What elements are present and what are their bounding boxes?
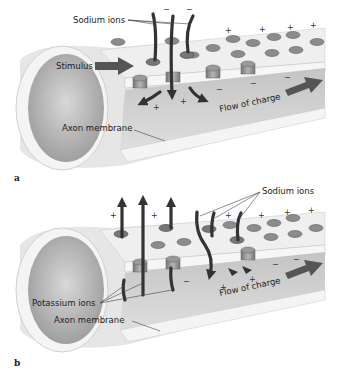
minus-sign: − [284, 73, 291, 82]
panel-b: + + + + + + − + + − − Sodium ions Potass… [14, 186, 325, 368]
plus-sign: + [225, 26, 232, 35]
minus-sign: − [186, 5, 193, 14]
label-axon-membrane: Axon membrane [62, 123, 132, 133]
label-sodium-ions: Sodium ions [73, 15, 126, 25]
label-sodium-ions: Sodium ions [262, 186, 315, 196]
minus-sign: − [250, 79, 257, 88]
minus-sign: − [293, 255, 300, 264]
panel-label-b: b [14, 358, 20, 368]
plus-sign: + [308, 206, 315, 215]
plus-sign: + [110, 211, 117, 220]
plus-sign: + [153, 103, 160, 112]
minus-sign: − [163, 5, 170, 14]
minus-sign: − [272, 260, 279, 269]
minus-sign: − [216, 85, 223, 94]
label-axon-membrane: Axon membrane [54, 315, 124, 325]
plus-sign: + [258, 211, 265, 220]
minus-sign: − [183, 277, 190, 286]
plus-sign: + [151, 211, 158, 220]
plus-sign: + [284, 208, 291, 217]
plus-sign: + [310, 21, 317, 30]
axon-end-interior [28, 236, 104, 344]
label-potassium-ions: Potassium ions [32, 298, 96, 308]
plus-sign: + [180, 97, 187, 106]
plus-sign: + [225, 211, 232, 220]
plus-sign: + [259, 25, 266, 34]
axon-diagram: − − + + + + + + − − − Sodium ions Stimul… [0, 0, 339, 375]
plus-sign: + [287, 23, 294, 32]
label-stimulus: Stimulus [56, 61, 94, 71]
panel-a: − − + + + + + + − − − Sodium ions Stimul… [14, 5, 325, 183]
panel-label-a: a [14, 173, 20, 183]
